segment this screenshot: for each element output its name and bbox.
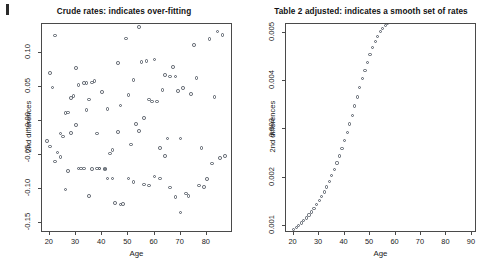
data-point	[168, 75, 172, 79]
y-axis-tick	[282, 225, 285, 226]
data-point	[213, 95, 217, 99]
panel-right-x-axis-title: Age	[285, 249, 476, 258]
data-point	[66, 111, 70, 115]
y-axis-tick	[38, 86, 41, 87]
x-axis-tick-label: 30	[65, 237, 85, 246]
data-point	[187, 194, 191, 198]
data-point	[158, 146, 162, 150]
data-point	[45, 139, 49, 143]
data-point	[48, 71, 52, 75]
data-point	[166, 137, 170, 141]
x-axis-tick	[344, 232, 345, 235]
data-point	[116, 130, 120, 134]
data-point	[325, 185, 328, 188]
data-point	[158, 177, 162, 181]
data-point	[343, 139, 346, 142]
data-point	[106, 107, 110, 111]
data-point	[69, 131, 73, 135]
data-point	[132, 180, 136, 184]
data-point	[340, 147, 343, 150]
y-axis-tick-label: 0.004	[267, 70, 276, 90]
data-point	[328, 180, 331, 183]
x-axis-tick-label: 60	[385, 237, 405, 246]
data-point	[53, 34, 57, 38]
y-axis-tick	[38, 120, 41, 121]
data-point	[163, 73, 167, 77]
y-axis-tick	[38, 154, 41, 155]
y-axis-tick-label: -0.10	[23, 177, 32, 197]
data-point	[145, 59, 149, 63]
data-point	[82, 167, 86, 171]
x-axis-tick	[101, 232, 102, 235]
x-axis-tick-label: 60	[144, 237, 164, 246]
y-axis-tick-label: 0.005	[267, 21, 276, 41]
data-point	[56, 151, 60, 155]
panel-crude-rates: Crude rates: indicates over-fitting -0.1…	[0, 0, 248, 275]
data-point	[111, 148, 115, 152]
data-point	[189, 92, 193, 96]
data-point	[163, 154, 167, 158]
data-point	[127, 177, 131, 181]
panel-left-plot-frame	[41, 23, 232, 232]
figure-root: Crude rates: indicates over-fitting -0.1…	[0, 0, 495, 275]
data-point	[379, 30, 382, 33]
data-point	[142, 116, 146, 120]
data-point	[103, 168, 107, 172]
data-point	[374, 40, 377, 43]
data-point	[72, 94, 76, 98]
x-axis-tick-label: 20	[39, 237, 59, 246]
data-point	[192, 43, 196, 47]
data-point	[48, 145, 52, 149]
data-point	[85, 108, 89, 112]
data-point	[312, 207, 315, 210]
data-point	[181, 86, 185, 90]
data-point	[208, 37, 212, 41]
data-point	[53, 160, 57, 164]
data-point	[137, 25, 141, 29]
data-point	[361, 77, 364, 80]
data-point	[85, 81, 89, 85]
data-point	[216, 30, 220, 34]
data-point	[77, 83, 81, 87]
data-point	[320, 195, 323, 198]
data-point	[210, 162, 214, 166]
data-point	[106, 177, 110, 181]
data-point	[371, 46, 374, 49]
data-point	[87, 194, 91, 198]
data-point	[307, 213, 310, 216]
data-point	[137, 129, 141, 133]
data-point	[346, 131, 349, 134]
data-point	[95, 132, 99, 136]
x-axis-tick	[471, 232, 472, 235]
data-point	[205, 177, 209, 181]
data-point	[64, 188, 68, 192]
data-point	[98, 167, 102, 171]
x-axis-tick-label: 90	[461, 237, 481, 246]
x-axis-tick-label: 40	[91, 237, 111, 246]
data-point	[171, 65, 175, 69]
data-point	[66, 169, 70, 173]
x-axis-tick	[206, 232, 207, 235]
data-point	[74, 66, 78, 70]
data-point	[353, 104, 356, 107]
panel-right-y-axis-title: 2nd differences	[268, 91, 277, 161]
data-point	[179, 137, 183, 141]
data-point	[93, 79, 97, 83]
data-point	[305, 216, 308, 219]
x-axis-tick	[395, 232, 396, 235]
data-point	[116, 61, 120, 65]
data-point	[197, 184, 201, 188]
data-point	[124, 37, 128, 41]
data-point	[310, 210, 313, 213]
data-point	[381, 27, 384, 30]
data-point	[142, 183, 146, 187]
data-point	[119, 104, 123, 108]
data-point	[113, 201, 117, 205]
data-point	[356, 95, 359, 98]
y-axis-tick	[282, 32, 285, 33]
data-point	[140, 60, 144, 64]
data-point	[90, 167, 94, 171]
data-point	[121, 202, 125, 206]
data-point	[335, 161, 338, 164]
data-point	[108, 152, 112, 156]
